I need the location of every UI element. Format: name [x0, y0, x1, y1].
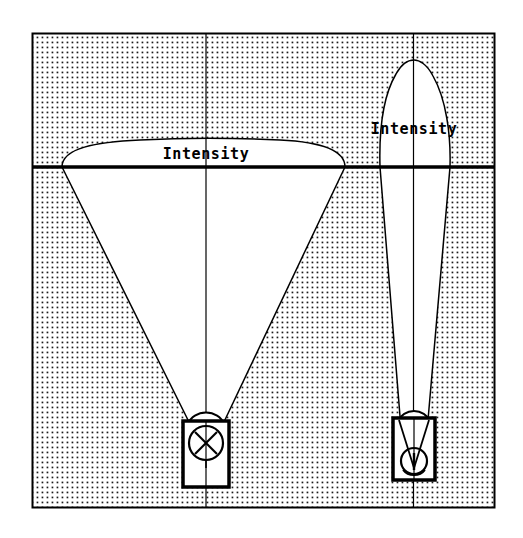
narrow-beam-intensity-label: Intensity: [371, 120, 458, 138]
luminaire-wide: [183, 412, 229, 487]
wide-beam-intensity-label: Intensity: [163, 145, 250, 163]
figure-root: Intensity Intensity: [0, 0, 523, 538]
intensity-distribution-diagram: Intensity Intensity: [0, 0, 523, 538]
luminaire-narrow: [393, 411, 435, 480]
